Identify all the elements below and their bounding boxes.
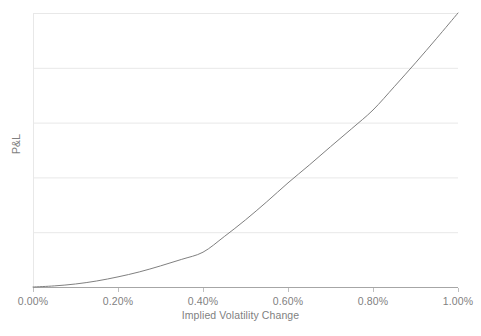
gridlines bbox=[33, 14, 458, 288]
x-tick-label-1: 0.20% bbox=[103, 295, 133, 307]
x-axis-title: Implied Volatility Change bbox=[0, 309, 481, 321]
series-line-0 bbox=[33, 13, 458, 287]
x-tick-label-0: 0.00% bbox=[18, 295, 48, 307]
tick-marks bbox=[34, 288, 459, 292]
axis-lines bbox=[33, 13, 458, 288]
y-axis-title: P&L bbox=[10, 130, 22, 158]
x-tick-label-5: 1.00% bbox=[443, 295, 473, 307]
x-tick-label-2: 0.40% bbox=[188, 295, 218, 307]
x-tick-label-4: 0.80% bbox=[358, 295, 388, 307]
data-series bbox=[33, 13, 458, 287]
chart-container: 0.00% 0.20% 0.40% 0.60% 0.80% 1.00% Impl… bbox=[0, 0, 481, 336]
x-tick-label-3: 0.60% bbox=[273, 295, 303, 307]
plot-area bbox=[0, 0, 481, 336]
